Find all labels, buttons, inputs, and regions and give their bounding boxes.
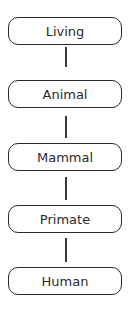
connector-animal-mammal bbox=[65, 116, 67, 138]
node-human: Human bbox=[8, 267, 122, 295]
node-label: Human bbox=[42, 274, 89, 289]
node-animal: Animal bbox=[8, 80, 122, 108]
node-label: Living bbox=[46, 24, 85, 39]
node-label: Mammal bbox=[37, 150, 93, 165]
node-mammal: Mammal bbox=[8, 143, 122, 171]
connector-living-animal bbox=[65, 47, 67, 67]
node-living: Living bbox=[8, 17, 122, 45]
connector-mammal-primate bbox=[65, 177, 67, 200]
node-label: Primate bbox=[40, 212, 90, 227]
node-label: Animal bbox=[43, 87, 88, 102]
node-primate: Primate bbox=[8, 205, 122, 233]
connector-primate-human bbox=[65, 238, 67, 262]
